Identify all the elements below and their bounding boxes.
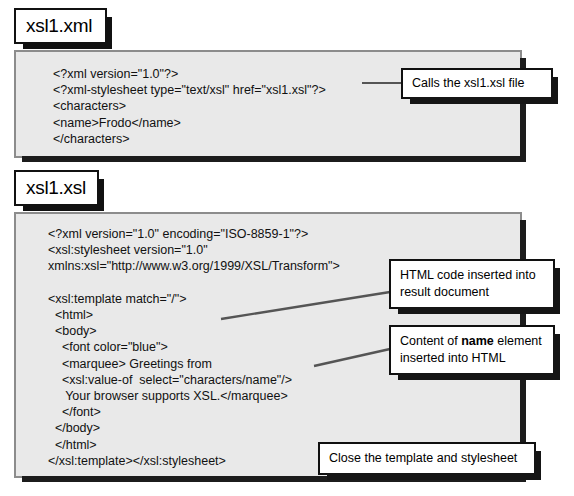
callout-html-code-line2: result document [400,284,544,301]
callout-name-content-line1: Content of name element [400,333,544,350]
callout-html-code-line1: HTML code inserted into [400,267,544,284]
callout-close-template: Close the template and stylesheet [318,442,536,475]
panel-title-tab-xml: xsl1.xml [14,8,107,44]
callout-name-content-suffix: element [494,334,542,348]
panel-title-label-xsl: xsl1.xsl [26,177,86,199]
callout-calls-file: Calls the xsl1.xsl file [401,68,553,99]
callout-name-content-prefix: Content of [400,334,461,348]
callout-close-template-text: Close the template and stylesheet [329,450,525,467]
panel-title-tab-xsl: xsl1.xsl [14,170,99,206]
figure-canvas: xsl1.xml <?xml version="1.0"?> <?xml-sty… [0,0,574,496]
callout-html-code-inserted: HTML code inserted into result document [389,259,555,309]
callout-calls-file-text: Calls the xsl1.xsl file [412,75,542,92]
panel-title-label-xml: xsl1.xml [26,15,92,37]
code-block-xml: <?xml version="1.0"?> <?xml-stylesheet t… [53,66,326,147]
callout-name-content-line2: inserted into HTML [400,350,544,367]
callout-name-content: Content of name element inserted into HT… [389,325,555,375]
callout-name-content-emphasis: name [461,334,494,348]
code-block-xsl: <?xml version="1.0" encoding="ISO-8859-1… [48,226,340,469]
